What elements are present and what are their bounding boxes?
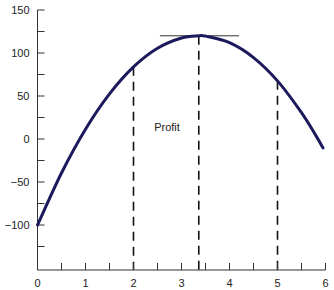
profit-chart: −100−50050100150 0123456 Profit <box>0 0 334 290</box>
dashed-reference-lines <box>134 36 278 270</box>
x-tick-label: 2 <box>130 277 136 289</box>
x-tick-label: 1 <box>82 277 88 289</box>
x-tick-label: 4 <box>226 277 232 289</box>
x-tick-label: 0 <box>34 277 40 289</box>
x-tick-label: 6 <box>322 277 328 289</box>
profit-annotation: Profit <box>154 121 180 133</box>
y-tick-label: −100 <box>5 219 30 231</box>
x-axis-ticks: 0123456 <box>34 263 328 289</box>
y-axis-ticks: −100−50050100150 <box>5 4 45 247</box>
x-tick-label: 3 <box>178 277 184 289</box>
axes: −100−50050100150 0123456 <box>5 4 329 289</box>
y-tick-label: −50 <box>11 176 30 188</box>
y-tick-label: 50 <box>17 90 29 102</box>
y-tick-label: 0 <box>23 133 29 145</box>
y-tick-label: 150 <box>11 4 29 16</box>
y-tick-label: 100 <box>11 47 29 59</box>
profit-curve <box>38 35 324 225</box>
x-tick-label: 5 <box>274 277 280 289</box>
